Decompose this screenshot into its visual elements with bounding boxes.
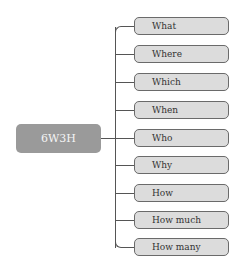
branch-line	[116, 54, 134, 55]
branch-line	[116, 165, 134, 166]
node-how: How	[134, 184, 229, 202]
trunk-corner-bottom	[115, 240, 123, 248]
node-how-many: How many	[134, 238, 229, 256]
node-what: What	[134, 17, 229, 35]
trunk-corner-top	[115, 26, 123, 34]
node-how-much: How much	[134, 211, 229, 229]
branch-line	[123, 26, 134, 27]
branch-line	[116, 138, 134, 139]
branch-line	[116, 220, 134, 221]
root-connector	[101, 138, 115, 139]
node-where: Where	[134, 45, 229, 63]
branch-line	[116, 193, 134, 194]
node-why: Why	[134, 156, 229, 174]
branch-line	[116, 110, 134, 111]
branch-line	[123, 247, 134, 248]
node-who: Who	[134, 129, 229, 147]
branch-line	[116, 82, 134, 83]
node-which: Which	[134, 73, 229, 91]
root-node-6w3h: 6W3H	[16, 124, 101, 153]
node-when: When	[134, 101, 229, 119]
